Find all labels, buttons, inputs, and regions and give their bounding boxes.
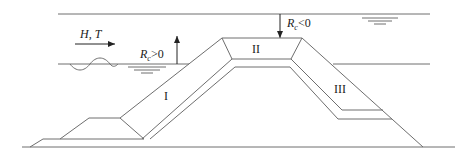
zone-III-label: III: [334, 82, 346, 96]
zone-II-label: II: [252, 42, 260, 56]
lower-water-symbol-icon: [128, 67, 166, 73]
upper-water-symbol-icon: [362, 18, 398, 24]
rc-negative-label: Rc<0: [286, 16, 311, 32]
crest-zone-boundaries: [222, 38, 302, 59]
rc-positive-label: Rc>0: [139, 47, 164, 63]
breakwater-diagram: H, T Rc>0 Rc<0 I II III: [0, 0, 473, 161]
zone-I-label: I: [164, 89, 168, 103]
wave-label: H, T: [79, 27, 103, 41]
toe-berm: [30, 118, 144, 147]
